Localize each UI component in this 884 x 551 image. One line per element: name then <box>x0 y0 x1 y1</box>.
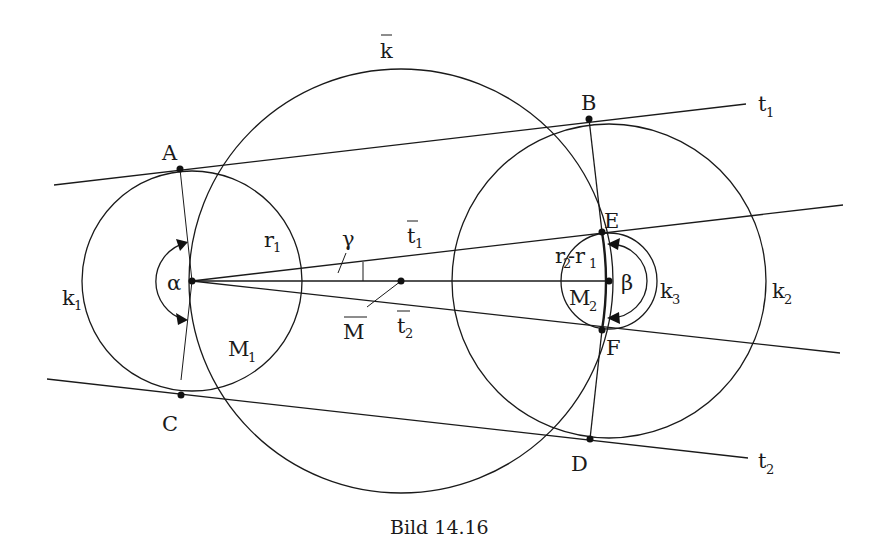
label-k1: k 1 <box>62 286 82 313</box>
label-gamma: γ <box>342 227 355 251</box>
geometry-figure: k k 1 k 2 k 3 t 1 t 2 t 1 t 2 M M 1 M 2 <box>0 0 884 551</box>
point-B <box>586 116 593 123</box>
svg-text:1: 1 <box>273 240 281 255</box>
label-F: F <box>606 336 621 360</box>
point-M1 <box>189 278 196 285</box>
label-A: A <box>161 141 178 165</box>
point-M-bar <box>398 278 405 285</box>
point-C <box>178 392 185 399</box>
label-C: C <box>162 412 178 436</box>
label-r1: r 1 <box>264 228 281 255</box>
svg-text:M: M <box>343 320 365 344</box>
figure-caption: Bild 14.16 <box>390 516 489 538</box>
line-t1-bar <box>192 205 843 281</box>
svg-text:2: 2 <box>405 326 413 341</box>
label-alpha: α <box>167 271 181 295</box>
svg-text:2: 2 <box>784 292 792 307</box>
label-k-bar: k <box>380 35 393 63</box>
point-D <box>587 436 594 443</box>
label-M1: M 1 <box>228 337 256 365</box>
line-t2-bar <box>192 281 840 353</box>
tangent-t1 <box>54 104 746 185</box>
svg-text:M: M <box>569 286 591 310</box>
svg-text:3: 3 <box>672 292 680 307</box>
label-k3: k 3 <box>660 279 680 307</box>
svg-text:-r: -r <box>568 244 586 268</box>
label-k2: k 2 <box>772 279 792 307</box>
segment-F-D <box>590 330 602 439</box>
segment-B-E <box>589 119 602 232</box>
svg-text:M: M <box>228 337 250 361</box>
svg-text:k: k <box>380 39 393 63</box>
point-A <box>177 166 184 173</box>
alpha-arrow-top <box>176 239 188 251</box>
label-E: E <box>604 209 619 233</box>
label-beta: β <box>621 271 633 295</box>
svg-text:1: 1 <box>415 236 423 251</box>
label-B: B <box>581 91 596 115</box>
radius-M1-C <box>181 281 192 380</box>
label-M2: M 2 <box>569 286 597 314</box>
label-r2-minus-r1: r 2 -r 1 <box>555 244 597 271</box>
label-t1: t 1 <box>758 92 774 120</box>
label-t1-bar: t 1 <box>407 221 423 251</box>
point-M2 <box>606 278 613 285</box>
alpha-arrow-bottom <box>176 313 188 325</box>
label-M-bar: M <box>343 317 367 344</box>
label-t2-bar: t 2 <box>397 311 413 341</box>
svg-text:1: 1 <box>74 298 82 313</box>
tangent-t2 <box>47 379 748 458</box>
label-D: D <box>571 452 588 476</box>
radius-M1-A <box>180 169 192 281</box>
label-t2: t 2 <box>758 449 774 477</box>
point-F <box>599 327 606 334</box>
svg-text:1: 1 <box>248 350 256 365</box>
svg-text:2: 2 <box>589 299 597 314</box>
svg-text:1: 1 <box>766 105 774 120</box>
svg-text:2: 2 <box>766 462 774 477</box>
svg-text:1: 1 <box>589 256 597 271</box>
